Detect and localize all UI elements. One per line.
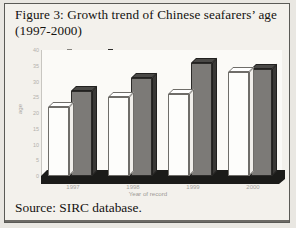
bar-face (168, 94, 189, 176)
bar-face (48, 107, 69, 176)
plot-area (41, 50, 282, 176)
y-axis-tick: 20 (23, 110, 39, 116)
bar-foreign-1997 (48, 107, 69, 176)
bar-group (108, 50, 152, 176)
bar-side (92, 86, 97, 176)
y-axis-tick: 5 (23, 157, 39, 163)
bar-face (108, 97, 129, 176)
bar-side (272, 64, 277, 176)
y-axis-tick: 0 (23, 173, 39, 179)
bar-face (71, 91, 92, 176)
bar-side (249, 67, 254, 176)
source-divider (5, 220, 290, 222)
figure-card: Figure 3: Growth trend of Chinese seafar… (4, 3, 290, 223)
chart-area: Foreign National age 4035302520151050 19… (11, 44, 285, 200)
bar-group (168, 50, 212, 176)
y-axis-tick: 10 (23, 142, 39, 148)
bar-face (251, 69, 272, 176)
y-axis-tick: 30 (23, 79, 39, 85)
bar-side (189, 89, 194, 176)
bar-face (191, 63, 212, 176)
bar-foreign-2000 (228, 72, 249, 176)
x-axis-title: Year of record (11, 190, 285, 197)
bar-national-1997 (71, 91, 92, 176)
bar-face (131, 78, 152, 176)
bar-national-1999 (191, 63, 212, 176)
y-axis-ticks: 4035302520151050 (23, 50, 39, 176)
bar-national-2000 (251, 69, 272, 176)
bar-group (228, 50, 272, 176)
figure-title: Figure 3: Growth trend of Chinese seafar… (15, 7, 283, 38)
bar-side (69, 102, 74, 176)
y-axis-tick: 15 (23, 126, 39, 132)
source-line: Source: SIRC database. (15, 200, 142, 216)
bar-foreign-1998 (108, 97, 129, 176)
y-axis-tick: 35 (23, 63, 39, 69)
bar-foreign-1999 (168, 94, 189, 176)
bar-face (228, 72, 249, 176)
y-axis-tick: 25 (23, 94, 39, 100)
bar-group (48, 50, 92, 176)
bar-side (129, 92, 134, 176)
y-axis-tick: 40 (23, 47, 39, 53)
bar-side (212, 58, 217, 176)
bar-side (152, 73, 157, 176)
bar-national-1998 (131, 78, 152, 176)
